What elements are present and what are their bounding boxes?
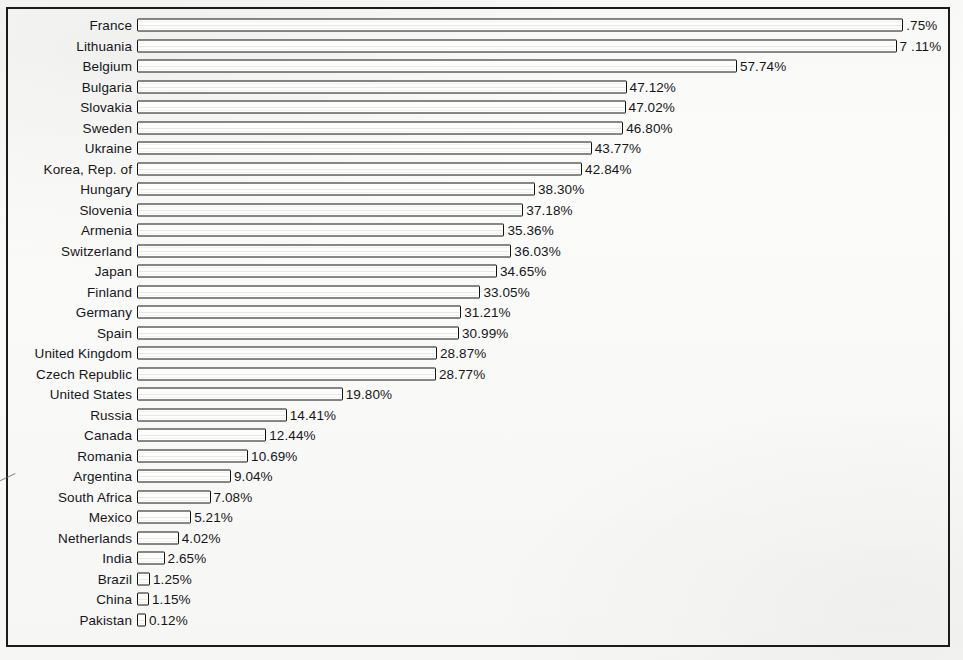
bar (137, 552, 165, 565)
bar-value-label: 47.12% (627, 79, 676, 94)
bar-value-label: 19.80% (343, 387, 392, 402)
bar-row: France.75% (0, 15, 963, 36)
bar-row: Mexico5.21% (0, 507, 963, 528)
bar-value-label: 42.84% (582, 161, 631, 176)
category-label: Japan (95, 264, 137, 279)
category-label: Slovakia (80, 100, 137, 115)
bar-value-label: 28.77% (436, 366, 485, 381)
category-label: Lithuania (76, 38, 137, 53)
bar (137, 162, 582, 175)
bar (137, 80, 627, 93)
bar-value-label: 46.80% (623, 120, 672, 135)
bar (137, 408, 287, 421)
bar (137, 449, 248, 462)
bar-value-label: 31.21% (461, 305, 510, 320)
category-label: Mexico (89, 510, 137, 525)
bar-row: Pakistan0.12% (0, 610, 963, 631)
category-label: Sweden (83, 120, 137, 135)
bar-value-label: 28.87% (437, 346, 486, 361)
bar-value-label: 7 .11% (897, 38, 942, 53)
category-label: Brazil (98, 571, 137, 586)
bar-row: Spain30.99% (0, 323, 963, 344)
bar (137, 265, 497, 278)
bar-value-label: 2.65% (165, 551, 207, 566)
bar-value-label: 1.15% (149, 592, 191, 607)
bar (137, 203, 523, 216)
bar-value-label: 1.25% (150, 571, 192, 586)
bar-value-label: 5.21% (191, 510, 233, 525)
bar-value-label: 0.12% (146, 612, 188, 627)
bar-row: Romania10.69% (0, 446, 963, 467)
category-label: United States (50, 387, 137, 402)
bar-chart-plot-area: France.75%Lithuania7 .11%Belgium57.74%Bu… (0, 15, 963, 630)
bar (137, 60, 737, 73)
chart-page: France.75%Lithuania7 .11%Belgium57.74%Bu… (0, 0, 963, 660)
category-label: Ukraine (85, 141, 137, 156)
category-label: Romania (77, 448, 137, 463)
bar-value-label: 38.30% (535, 182, 584, 197)
bar (137, 429, 266, 442)
bar (137, 613, 146, 626)
bar-row: Argentina9.04% (0, 466, 963, 487)
bar-row: Hungary38.30% (0, 179, 963, 200)
category-label: Korea, Rep. of (44, 161, 137, 176)
bar-row: Armenia35.36% (0, 220, 963, 241)
bar (137, 531, 179, 544)
bar (137, 39, 897, 52)
category-label: France (89, 18, 137, 33)
category-label: Czech Republic (36, 366, 137, 381)
bar-row: United Kingdom28.87% (0, 343, 963, 364)
bar-row: Brazil1.25% (0, 569, 963, 590)
bar (137, 367, 436, 380)
bar-row: South Africa7.08% (0, 487, 963, 508)
category-label: Netherlands (58, 530, 137, 545)
bar (137, 121, 623, 134)
bar (137, 388, 343, 401)
bar-row: Germany31.21% (0, 302, 963, 323)
bar-row: India2.65% (0, 548, 963, 569)
bar-value-label: 4.02% (179, 530, 221, 545)
bar (137, 19, 903, 32)
bar-value-label: 33.05% (480, 284, 529, 299)
bar-value-label: 36.03% (511, 243, 560, 258)
bar (137, 183, 535, 196)
category-label: Hungary (80, 182, 137, 197)
bar (137, 142, 592, 155)
bar-row: Korea, Rep. of42.84% (0, 159, 963, 180)
category-label: Russia (90, 407, 137, 422)
category-label: Germany (76, 305, 137, 320)
category-label: Switzerland (61, 243, 137, 258)
bar-value-label: 14.41% (287, 407, 336, 422)
bar-value-label: 12.44% (266, 428, 315, 443)
bar-row: Lithuania7 .11% (0, 36, 963, 57)
category-label: Canada (84, 428, 137, 443)
bar-value-label: .75% (903, 18, 937, 33)
bar-row: China1.15% (0, 589, 963, 610)
bar (137, 306, 461, 319)
bar-value-label: 47.02% (626, 100, 675, 115)
bar (137, 593, 149, 606)
category-label: Bulgaria (82, 79, 137, 94)
bar-value-label: 9.04% (231, 469, 273, 484)
bar-row: Finland33.05% (0, 282, 963, 303)
bar-row: Ukraine43.77% (0, 138, 963, 159)
category-label: Belgium (83, 59, 137, 74)
category-label: United Kingdom (35, 346, 137, 361)
bar-row: Czech Republic28.77% (0, 364, 963, 385)
bar-row: Netherlands4.02% (0, 528, 963, 549)
category-label: Argentina (73, 469, 137, 484)
category-label: Armenia (81, 223, 137, 238)
bar (137, 326, 459, 339)
bar (137, 101, 626, 114)
category-label: Pakistan (79, 612, 137, 627)
bar-row: Switzerland36.03% (0, 241, 963, 262)
bar-row: Japan34.65% (0, 261, 963, 282)
bar-value-label: 10.69% (248, 448, 297, 463)
bar (137, 470, 231, 483)
bar-row: Sweden46.80% (0, 118, 963, 139)
category-label: Slovenia (79, 202, 137, 217)
category-label: India (102, 551, 137, 566)
bar-row: Russia14.41% (0, 405, 963, 426)
bar (137, 285, 480, 298)
category-label: Spain (97, 325, 137, 340)
